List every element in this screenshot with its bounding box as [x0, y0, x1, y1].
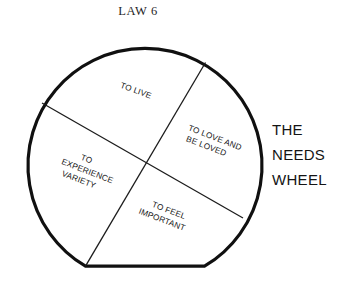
- side-caption-line-1: THE: [272, 117, 327, 142]
- side-caption-line-2: NEEDS: [272, 142, 327, 167]
- diagram-page: LAW 6 TO LIVE TO LOVE AND BE LOVED TO EX…: [0, 0, 350, 292]
- side-caption: THE NEEDS WHEEL: [272, 117, 327, 192]
- side-caption-line-3: WHEEL: [272, 167, 327, 192]
